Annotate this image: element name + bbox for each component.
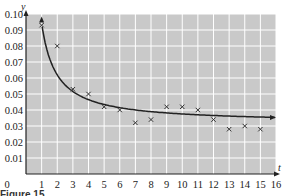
svg-text:0.09: 0.09 [5, 25, 23, 36]
svg-text:4: 4 [86, 179, 92, 190]
svg-text:3: 3 [70, 179, 75, 190]
chart: yt 0123456789101112131415160.010.020.030… [0, 0, 283, 196]
svg-text:12: 12 [208, 179, 219, 190]
svg-text:5: 5 [102, 179, 107, 190]
svg-text:0.03: 0.03 [5, 121, 23, 132]
svg-text:8: 8 [148, 179, 153, 190]
svg-text:0.04: 0.04 [5, 105, 24, 116]
svg-text:0.05: 0.05 [5, 89, 23, 100]
svg-text:2: 2 [55, 179, 60, 190]
svg-text:0.02: 0.02 [5, 137, 23, 148]
svg-text:11: 11 [193, 179, 203, 190]
svg-text:0.06: 0.06 [5, 73, 23, 84]
figure-caption: Figure 15 [0, 189, 44, 196]
svg-text:10: 10 [177, 179, 188, 190]
svg-text:16: 16 [271, 179, 282, 190]
svg-text:14: 14 [240, 179, 251, 190]
svg-text:9: 9 [164, 179, 169, 190]
svg-text:0.07: 0.07 [5, 57, 23, 68]
svg-text:6: 6 [117, 179, 122, 190]
svg-text:0.01: 0.01 [5, 153, 23, 164]
svg-text:0.08: 0.08 [5, 41, 23, 52]
svg-text:7: 7 [133, 179, 138, 190]
svg-text:13: 13 [224, 179, 235, 190]
svg-text:15: 15 [255, 179, 266, 190]
svg-text:0.10: 0.10 [5, 9, 23, 20]
svg-text:t: t [278, 162, 281, 173]
